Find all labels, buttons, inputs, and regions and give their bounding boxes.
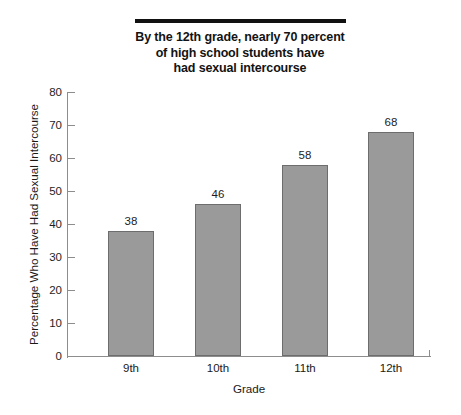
x-axis-label-12th: 12th bbox=[361, 362, 421, 375]
y-axis-tick-50 bbox=[68, 191, 75, 192]
bar-chart-figure: By the 12th grade, nearly 70 percent of … bbox=[0, 0, 461, 415]
x-axis-label-11th: 11th bbox=[275, 362, 335, 375]
x-axis-line bbox=[67, 356, 431, 357]
chart-title: By the 12th grade, nearly 70 percent of … bbox=[60, 30, 420, 77]
y-axis-tick-60 bbox=[68, 158, 75, 159]
y-axis-tick-70 bbox=[68, 125, 75, 126]
chart-title-line-1: By the 12th grade, nearly 70 percent bbox=[60, 30, 420, 46]
x-axis-end-tick bbox=[429, 350, 430, 357]
title-rule-divider bbox=[135, 19, 346, 23]
y-axis-label-80-wrap: 80 bbox=[30, 87, 62, 99]
chart-title-line-3: had sexual intercourse bbox=[60, 61, 420, 77]
bar-9th bbox=[108, 231, 154, 356]
y-axis-tick-80 bbox=[68, 92, 75, 93]
bar-10th bbox=[195, 204, 241, 356]
bar-value-9th: 38 bbox=[108, 215, 154, 227]
x-axis-title: Grade bbox=[67, 382, 431, 395]
y-axis-tick-40 bbox=[68, 224, 75, 225]
bar-value-10th: 46 bbox=[195, 188, 241, 200]
x-axis-label-10th: 10th bbox=[188, 362, 248, 375]
bar-value-12th: 68 bbox=[368, 116, 414, 128]
bar-value-11th: 58 bbox=[282, 149, 328, 161]
y-axis-title: Percentage Who Have Had Sexual Intercour… bbox=[27, 101, 40, 349]
bar-11th bbox=[282, 165, 328, 356]
y-axis-tick-30 bbox=[68, 257, 75, 258]
y-axis-label-80: 80 bbox=[34, 87, 62, 99]
y-axis-tick-10 bbox=[68, 323, 75, 324]
y-axis-tick-20 bbox=[68, 290, 75, 291]
x-axis-label-9th: 9th bbox=[101, 362, 161, 375]
y-axis-label-0-wrap: 0 bbox=[30, 351, 62, 363]
y-axis-label-0: 0 bbox=[34, 351, 62, 363]
bar-12th bbox=[368, 132, 414, 356]
chart-title-line-2: of high school students have bbox=[60, 46, 420, 62]
